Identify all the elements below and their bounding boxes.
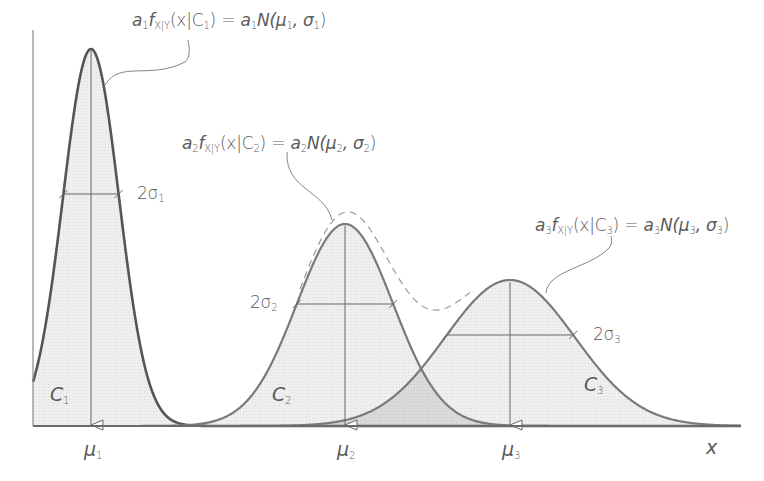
sigma-label-c1: 2σ1 (137, 183, 164, 204)
leader-line-c1 (105, 40, 189, 85)
formula-c1: a1fX|Y(x|C1) = a1N(μ1, σ1) (132, 10, 326, 31)
class-label-c1: C1 (50, 383, 69, 406)
mean-label-mu3: μ3 (502, 438, 520, 461)
mixture-diagram (0, 0, 764, 481)
component-fills (33, 49, 741, 426)
class-label-c3: C3 (584, 373, 603, 396)
class-label-c2: C2 (272, 383, 291, 406)
mean-label-mu1: μ1 (84, 438, 102, 461)
formula-c2: a2fX|Y(x|C2) = a2N(μ2, σ2) (182, 133, 376, 154)
leader-line-c3 (546, 236, 612, 293)
sigma-label-c3: 2σ3 (593, 324, 620, 345)
sigma-label-c2: 2σ2 (250, 292, 277, 313)
x-axis-label: x (706, 436, 717, 458)
mean-label-mu2: μ2 (337, 438, 355, 461)
leader-line-c2 (287, 152, 332, 220)
formula-c3: a3fX|Y(x|C3) = a3N(μ3, σ3) (535, 215, 729, 236)
